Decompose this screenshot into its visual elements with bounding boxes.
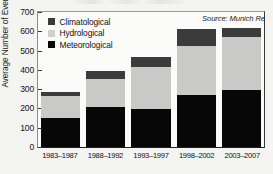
- legend-label: Climatological: [60, 17, 111, 27]
- legend-label: Meteorological: [60, 40, 113, 50]
- legend-item-hydrological: Hydrological: [48, 28, 113, 40]
- cropped-title-artifact: [70, 0, 190, 4]
- y-axis-label: Average Number of Events: [0, 0, 10, 99]
- x-tick-2: 1988–1992: [86, 151, 126, 160]
- legend-swatch-icon-climatological: [48, 18, 55, 25]
- segment-meteorological-2: [86, 107, 125, 147]
- legend-label: Hydrological: [60, 28, 105, 38]
- legend-swatch-icon-hydrological: [48, 30, 55, 37]
- bar-4: [177, 12, 216, 147]
- legend-swatch-icon-meteorological: [48, 41, 55, 48]
- segment-hydrological-2: [86, 79, 125, 108]
- x-tick-5: 2003–2007: [222, 151, 262, 160]
- segment-hydrological-3: [131, 67, 170, 109]
- x-axis-ticks: 1983–19871988–19921993–19971998–20022003…: [37, 151, 265, 160]
- x-tick-4: 1998–2002: [177, 151, 217, 160]
- segment-hydrological-5: [222, 37, 261, 89]
- segment-meteorological-4: [177, 95, 216, 147]
- y-tick-200: 200: [20, 103, 38, 113]
- legend-item-climatological: Climatological: [48, 16, 113, 28]
- bar-3: [131, 12, 170, 147]
- segment-climatological-3: [131, 57, 170, 67]
- bar-5: [222, 12, 261, 147]
- y-tick-500: 500: [20, 46, 38, 56]
- stacked-bar-chart: Average Number of Events 010020030040050…: [0, 0, 273, 174]
- y-tick-700: 700: [20, 7, 38, 17]
- segment-meteorological-1: [41, 118, 80, 147]
- segment-hydrological-1: [41, 96, 80, 118]
- y-tick-600: 600: [20, 26, 38, 36]
- segment-climatological-5: [222, 28, 261, 38]
- y-tick-100: 100: [20, 123, 38, 133]
- segment-hydrological-4: [177, 46, 216, 95]
- x-tick-3: 1993–1997: [131, 151, 171, 160]
- segment-climatological-2: [86, 71, 125, 79]
- x-tick-1: 1983–1987: [40, 151, 80, 160]
- y-tick-400: 400: [20, 65, 38, 75]
- segment-climatological-4: [177, 29, 216, 46]
- source-note: Source: Munich Re: [202, 14, 265, 23]
- y-tick-300: 300: [20, 84, 38, 94]
- chart-legend: ClimatologicalHydrologicalMeteorological: [48, 16, 113, 51]
- segment-meteorological-5: [222, 90, 261, 147]
- legend-item-meteorological: Meteorological: [48, 39, 113, 51]
- segment-meteorological-3: [131, 109, 170, 147]
